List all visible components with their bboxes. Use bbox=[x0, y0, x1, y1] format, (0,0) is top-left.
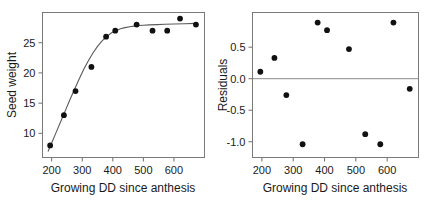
data-point bbox=[257, 69, 263, 75]
x-tick-label: 500 bbox=[134, 164, 152, 176]
left-plot-frame bbox=[43, 13, 205, 158]
left-y-axis-label: Seed weight bbox=[5, 51, 19, 118]
y-tick-label: 0.0 bbox=[230, 73, 245, 85]
data-point bbox=[112, 28, 118, 34]
data-point bbox=[407, 86, 413, 92]
y-tick-label: 10 bbox=[23, 127, 35, 139]
data-point bbox=[61, 112, 67, 118]
x-tick-label: 600 bbox=[165, 164, 183, 176]
y-tick-label: 0.5 bbox=[230, 41, 245, 53]
data-point bbox=[300, 141, 306, 147]
data-point bbox=[73, 88, 79, 94]
left-x-tickmarks bbox=[52, 158, 174, 162]
left-y-tickmarks bbox=[39, 43, 43, 134]
left-data-points bbox=[47, 16, 199, 149]
panel-seed-weight: 200300400500600 10152025 Growing DD sinc… bbox=[0, 0, 214, 207]
seed-weight-plot: 200300400500600 10152025 Growing DD sinc… bbox=[0, 0, 214, 207]
data-point bbox=[315, 20, 321, 26]
x-tick-label: 500 bbox=[347, 164, 365, 176]
data-point bbox=[324, 27, 330, 33]
y-tick-label: -1.0 bbox=[227, 136, 246, 148]
right-x-axis-label: Growing DD since anthesis bbox=[263, 181, 408, 195]
x-tick-label: 200 bbox=[253, 164, 271, 176]
right-x-ticklabels: 200300400500600 bbox=[253, 164, 397, 176]
right-y-tickmarks bbox=[249, 47, 253, 142]
x-tick-label: 300 bbox=[73, 164, 91, 176]
data-point bbox=[164, 28, 170, 34]
x-tick-label: 300 bbox=[284, 164, 302, 176]
x-tick-label: 400 bbox=[104, 164, 122, 176]
right-x-tickmarks bbox=[262, 158, 387, 162]
data-point bbox=[283, 92, 289, 98]
right-plot-frame bbox=[253, 13, 419, 158]
data-point bbox=[377, 141, 383, 147]
data-point bbox=[362, 131, 368, 137]
data-point bbox=[150, 28, 156, 34]
fitted-curve bbox=[48, 23, 196, 151]
y-tick-label: 25 bbox=[23, 37, 35, 49]
x-tick-label: 400 bbox=[315, 164, 333, 176]
data-point bbox=[103, 34, 109, 40]
panel-residuals: 200300400500600 0.50.0-0.5-1.0 Growing D… bbox=[214, 0, 428, 207]
residuals-plot: 200300400500600 0.50.0-0.5-1.0 Growing D… bbox=[214, 0, 428, 207]
right-y-axis-label: Residuals bbox=[216, 59, 230, 112]
left-y-ticklabels: 10152025 bbox=[23, 37, 35, 140]
right-data-points bbox=[257, 20, 412, 147]
figure-container: 200300400500600 10152025 Growing DD sinc… bbox=[0, 0, 428, 207]
left-x-axis-label: Growing DD since anthesis bbox=[51, 181, 196, 195]
left-x-ticklabels: 200300400500600 bbox=[42, 164, 183, 176]
data-point bbox=[391, 20, 397, 26]
data-point bbox=[47, 143, 53, 149]
data-point bbox=[193, 22, 199, 28]
y-tick-label: 20 bbox=[23, 67, 35, 79]
x-tick-label: 600 bbox=[378, 164, 396, 176]
data-point bbox=[134, 22, 140, 28]
data-point bbox=[272, 55, 278, 61]
data-point bbox=[89, 64, 95, 70]
y-tick-label: 15 bbox=[23, 97, 35, 109]
data-point bbox=[177, 16, 183, 22]
data-point bbox=[346, 46, 352, 52]
x-tick-label: 200 bbox=[42, 164, 60, 176]
